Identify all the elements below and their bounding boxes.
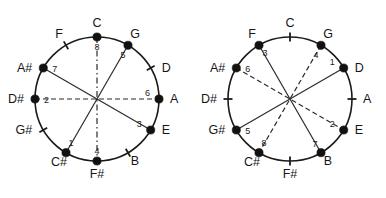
position-Fsharp: F#4 xyxy=(90,146,105,181)
chromatic-circle-left: C8G5DA6E3BF#4C#1G#D#2A#7F xyxy=(0,0,193,198)
note-label-A: A xyxy=(170,92,179,106)
position-Csharp: C#8 xyxy=(244,138,267,169)
chromatic-circle-right-svg: CG4D1AE2B7F#C#8G#5D#A#6F3 xyxy=(193,0,386,198)
note-label-Gsharp: G# xyxy=(16,123,33,137)
note-dot-Asharp xyxy=(232,64,240,72)
index-label-Asharp: 7 xyxy=(52,64,57,74)
chord-group xyxy=(236,45,343,152)
note-dot-C xyxy=(93,33,101,41)
index-label-B: 7 xyxy=(312,139,317,149)
note-label-E: E xyxy=(355,123,363,137)
note-label-Asharp: A# xyxy=(210,61,225,75)
note-label-D: D xyxy=(162,61,171,75)
note-label-E: E xyxy=(162,123,170,137)
index-label-Csharp: 1 xyxy=(68,138,73,148)
note-dot-Dsharp xyxy=(31,95,39,103)
index-label-A: 6 xyxy=(145,88,150,98)
index-label-E: 3 xyxy=(137,119,142,129)
position-G: G5 xyxy=(120,27,139,60)
note-label-Fsharp: F# xyxy=(90,167,105,181)
index-label-F: 3 xyxy=(262,48,267,58)
note-label-Gsharp: G# xyxy=(209,123,226,137)
note-label-Asharp: A# xyxy=(17,61,32,75)
note-label-F: F xyxy=(248,27,256,41)
index-label-G: 5 xyxy=(120,50,125,60)
position-E: E2 xyxy=(330,119,363,137)
note-dot-D xyxy=(340,64,348,72)
note-dot-A xyxy=(155,95,163,103)
note-label-G: G xyxy=(323,27,333,41)
figure-canvas: C8G5DA6E3BF#4C#1G#D#2A#7F CG4D1AE2B7F#C#… xyxy=(0,0,386,198)
note-label-Csharp: C# xyxy=(51,155,67,169)
position-Csharp: C#1 xyxy=(51,138,74,169)
note-label-F: F xyxy=(55,27,63,41)
note-dot-Fsharp xyxy=(93,157,101,165)
note-label-G: G xyxy=(130,27,140,41)
position-A: A6 xyxy=(145,88,179,106)
note-dot-E xyxy=(340,126,348,134)
index-label-Gsharp: 5 xyxy=(245,126,250,136)
note-dot-G xyxy=(317,41,325,49)
index-label-G: 4 xyxy=(313,50,318,60)
position-G: G4 xyxy=(313,27,332,60)
note-label-B: B xyxy=(131,154,139,168)
note-label-C: C xyxy=(92,16,101,30)
position-Dsharp: D#2 xyxy=(8,92,49,106)
note-dot-G xyxy=(124,41,132,49)
index-label-Asharp: 6 xyxy=(245,64,250,74)
chromatic-circle-left-svg: C8G5DA6E3BF#4C#1G#D#2A#7F xyxy=(0,0,193,198)
note-dot-Asharp xyxy=(39,64,47,72)
position-F: F xyxy=(55,27,68,49)
note-label-C: C xyxy=(285,16,294,30)
note-dot-Gsharp xyxy=(232,126,240,134)
index-label-D: 1 xyxy=(330,57,335,67)
position-D: D xyxy=(147,61,171,75)
note-label-Fsharp: F# xyxy=(283,167,298,181)
index-label-E: 2 xyxy=(330,119,335,129)
position-B: B xyxy=(126,149,139,168)
note-label-B: B xyxy=(324,154,332,168)
note-dot-E xyxy=(147,126,155,134)
note-label-D: D xyxy=(355,61,364,75)
index-label-C: 8 xyxy=(94,42,99,52)
chromatic-circle-right: CG4D1AE2B7F#C#8G#5D#A#6F3 xyxy=(193,0,386,198)
position-Gsharp: G# xyxy=(16,123,48,137)
position-E: E3 xyxy=(137,119,170,137)
index-label-Csharp: 8 xyxy=(261,138,266,148)
note-label-Csharp: C# xyxy=(244,155,260,169)
note-label-Dsharp: D# xyxy=(8,92,24,106)
index-label-Dsharp: 2 xyxy=(44,95,49,105)
position-B: B7 xyxy=(312,139,332,168)
position-C: C8 xyxy=(92,16,101,52)
note-label-A: A xyxy=(363,92,372,106)
note-label-Dsharp: D# xyxy=(201,92,217,106)
index-label-Fsharp: 4 xyxy=(94,146,99,156)
